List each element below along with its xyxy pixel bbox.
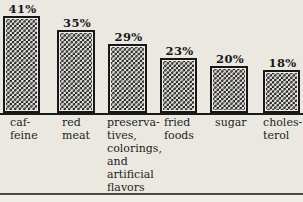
category-label-cholesterol: choles- terol xyxy=(263,116,302,142)
bar-caffeine xyxy=(3,16,40,113)
value-label-fried-foods: 23% xyxy=(166,44,194,58)
value-label-preservatives-colorings-and-artificial-flavors: 29% xyxy=(115,30,143,44)
value-label-sugar: 20% xyxy=(216,52,244,66)
scanned-bar-chart: 41%35%29%23%20%18% caf- feinered meatpre… xyxy=(0,0,303,202)
category-label-red-meat: red meat xyxy=(62,116,90,142)
bar-sugar xyxy=(210,66,248,113)
page-margin-strip xyxy=(0,195,303,202)
value-label-cholesterol: 18% xyxy=(269,56,297,70)
value-label-red-meat: 35% xyxy=(63,16,91,30)
bar-preservatives-colorings-and-artificial-flavors xyxy=(108,44,147,113)
category-label-sugar: sugar xyxy=(215,116,247,129)
bar-red-meat xyxy=(57,30,95,113)
x-axis-line xyxy=(0,113,303,115)
category-label-preservatives-colorings-and-artificial-flavors: preserva- tives, colorings, and artifici… xyxy=(107,116,162,194)
bar-cholesterol xyxy=(263,70,300,113)
category-label-caffeine: caf- feine xyxy=(10,116,38,142)
category-label-fried-foods: fried foods xyxy=(164,116,194,142)
bar-fried-foods xyxy=(160,58,197,113)
value-label-caffeine: 41% xyxy=(9,2,37,16)
